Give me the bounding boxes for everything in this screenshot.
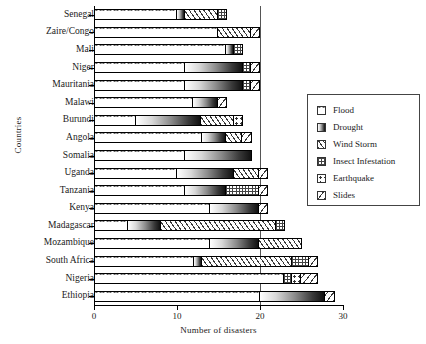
legend-item-earthquake[interactable]: Earthquake: [317, 170, 419, 187]
bar-segment-slides: [309, 257, 317, 266]
bar-segment-slides: [259, 186, 267, 195]
bar-segment-flood: [95, 63, 185, 72]
bar-madagascar[interactable]: [94, 220, 285, 231]
bar-segment-slides: [251, 28, 259, 37]
bar-segment-insect-infestation: [243, 81, 251, 90]
legend-swatch-icon: [317, 174, 326, 183]
legend-item-slides[interactable]: Slides: [317, 187, 419, 204]
bar-segment-flood: [95, 116, 136, 125]
bar-malawi[interactable]: [94, 97, 227, 108]
x-axis-title: Number of disasters: [94, 325, 343, 335]
y-tick: [89, 261, 94, 262]
legend-label: Earthquake: [333, 174, 374, 183]
y-axis-label: Mozambique: [44, 238, 94, 248]
y-axis-label: Madagascar: [48, 221, 94, 231]
legend-label: Drought: [333, 123, 363, 132]
legend-swatch-icon: [317, 191, 326, 200]
y-axis-label: Mauritania: [52, 80, 94, 90]
bar-burundi[interactable]: [94, 115, 243, 126]
y-tick: [89, 50, 94, 51]
y-tick: [89, 279, 94, 280]
y-tick: [89, 15, 94, 16]
bar-segment-slides: [218, 98, 226, 107]
y-tick: [89, 156, 94, 157]
bar-south-africa[interactable]: [94, 256, 318, 267]
bar-segment-insect-infestation: [243, 63, 251, 72]
chart-container: Countries Number of disasters 0102030 Se…: [0, 0, 426, 344]
x-tick: [94, 305, 95, 310]
legend-swatch-icon: [317, 157, 326, 166]
legend-label: Wind Storm: [333, 140, 377, 149]
bar-mauritania[interactable]: [94, 80, 260, 91]
x-tick: [260, 305, 261, 310]
bar-senegal[interactable]: [94, 9, 227, 20]
bar-segment-slides: [259, 169, 267, 178]
bar-ethiopia[interactable]: [94, 291, 335, 302]
bar-somalia[interactable]: [94, 150, 252, 161]
bar-segment-drought: [210, 239, 259, 248]
y-tick: [89, 208, 94, 209]
bar-segment-drought: [194, 257, 202, 266]
y-tick: [89, 138, 94, 139]
bar-segment-flood: [95, 204, 210, 213]
bar-segment-slides: [242, 133, 250, 142]
bar-segment-drought: [128, 221, 161, 230]
bar-segment-drought: [260, 292, 326, 301]
legend-item-wind-storm[interactable]: Wind Storm: [317, 136, 419, 153]
bar-segment-wind-storm: [234, 169, 259, 178]
bar-segment-wind-storm: [161, 221, 276, 230]
bar-niger[interactable]: [94, 62, 260, 73]
bar-segment-flood: [95, 28, 218, 37]
bar-segment-earthquake: [292, 274, 300, 283]
bar-mali[interactable]: [94, 44, 243, 55]
bar-segment-drought: [193, 98, 218, 107]
bar-segment-drought: [177, 10, 185, 19]
bar-segment-wind-storm: [226, 133, 242, 142]
y-tick: [89, 173, 94, 174]
legend-item-flood[interactable]: Flood: [317, 102, 419, 119]
plot-area: [94, 6, 343, 305]
bar-segment-insect-infestation: [218, 10, 226, 19]
legend-item-drought[interactable]: Drought: [317, 119, 419, 136]
y-tick: [89, 191, 94, 192]
y-tick: [89, 120, 94, 121]
bar-tanzania[interactable]: [94, 185, 268, 196]
bar-segment-drought: [177, 169, 234, 178]
bar-segment-drought: [185, 63, 242, 72]
bar-segment-flood: [95, 169, 177, 178]
bar-segment-insect-infestation: [226, 186, 259, 195]
legend-swatch-icon: [317, 123, 326, 132]
bar-angola[interactable]: [94, 132, 252, 143]
y-axis-label: South Africa: [46, 256, 94, 266]
bar-segment-drought: [136, 116, 202, 125]
bar-kenya[interactable]: [94, 203, 268, 214]
bar-mozambique[interactable]: [94, 238, 302, 249]
bar-segment-drought: [202, 133, 227, 142]
y-tick: [89, 103, 94, 104]
bar-segment-wind-storm: [259, 239, 300, 248]
bar-segment-insect-infestation: [234, 45, 242, 54]
x-tick: [343, 305, 344, 310]
bar-segment-drought: [185, 151, 251, 160]
bar-segment-flood: [95, 45, 226, 54]
legend-label: Insect Infestation: [333, 157, 395, 166]
bar-segment-drought: [185, 186, 226, 195]
bar-zaire-congo[interactable]: [94, 27, 260, 38]
bar-segment-wind-storm: [202, 257, 292, 266]
y-tick: [89, 32, 94, 33]
x-axis-line: [94, 305, 344, 306]
bar-segment-flood: [95, 257, 194, 266]
y-tick: [89, 243, 94, 244]
bar-nigeria[interactable]: [94, 273, 318, 284]
legend-item-insect-infestation[interactable]: Insect Infestation: [317, 153, 419, 170]
bar-segment-flood: [95, 133, 202, 142]
bar-segment-insect-infestation: [292, 257, 308, 266]
bar-segment-insect-infestation: [276, 221, 284, 230]
bar-segment-flood: [95, 10, 177, 19]
y-tick: [89, 68, 94, 69]
legend-label: Flood: [333, 106, 354, 115]
bar-segment-wind-storm: [185, 10, 218, 19]
bar-segment-flood: [95, 292, 260, 301]
bar-uganda[interactable]: [94, 168, 268, 179]
x-tick-label: 10: [165, 311, 189, 321]
